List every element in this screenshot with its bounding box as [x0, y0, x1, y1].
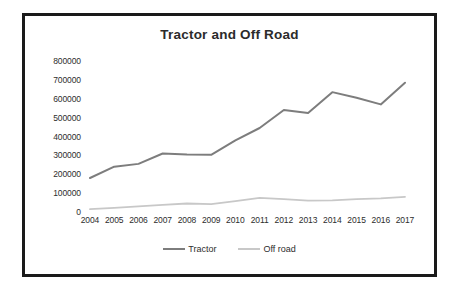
- x-tick-label: 2012: [275, 215, 294, 225]
- y-tick-label: 400000: [53, 132, 81, 142]
- y-tick-label: 100000: [53, 188, 81, 198]
- series-line-tractor: [90, 83, 405, 178]
- x-tick-label: 2015: [347, 215, 366, 225]
- y-tick-label: 200000: [53, 169, 81, 179]
- x-tick-label: 2007: [153, 215, 172, 225]
- legend-item-tractor[interactable]: Tractor: [163, 244, 216, 254]
- x-axis: 2004200520062007200820092010201120122013…: [90, 215, 405, 231]
- legend-swatch-icon: [238, 248, 260, 250]
- y-tick-label: 600000: [53, 94, 81, 104]
- chart-legend: TractorOff road: [25, 244, 434, 254]
- legend-item-off-road[interactable]: Off road: [238, 244, 295, 254]
- y-axis: 8000007000006000005000004000003000002000…: [25, 61, 85, 212]
- legend-swatch-icon: [163, 248, 185, 250]
- x-tick-label: 2017: [396, 215, 415, 225]
- y-tick-label: 500000: [53, 113, 81, 123]
- y-tick-label: 800000: [53, 56, 81, 66]
- plot-area: [90, 61, 405, 212]
- chart-title: Tractor and Off Road: [25, 27, 434, 42]
- series-line-off-road: [90, 197, 405, 209]
- plot-svg: [90, 61, 405, 212]
- x-tick-label: 2008: [178, 215, 197, 225]
- x-tick-label: 2010: [226, 215, 245, 225]
- x-tick-label: 2009: [202, 215, 221, 225]
- x-tick-label: 2006: [129, 215, 148, 225]
- legend-label: Off road: [263, 244, 295, 254]
- y-tick-label: 700000: [53, 75, 81, 85]
- legend-label: Tractor: [188, 244, 216, 254]
- chart-canvas: Tractor and Off Road 8000007000006000005…: [25, 16, 434, 274]
- chart-frame: Tractor and Off Road 8000007000006000005…: [22, 13, 437, 277]
- x-tick-label: 2004: [81, 215, 100, 225]
- x-tick-label: 2011: [251, 215, 269, 225]
- x-tick-label: 2013: [299, 215, 318, 225]
- y-tick-label: 300000: [53, 150, 81, 160]
- x-tick-label: 2014: [323, 215, 342, 225]
- x-tick-label: 2016: [372, 215, 391, 225]
- x-tick-label: 2005: [105, 215, 124, 225]
